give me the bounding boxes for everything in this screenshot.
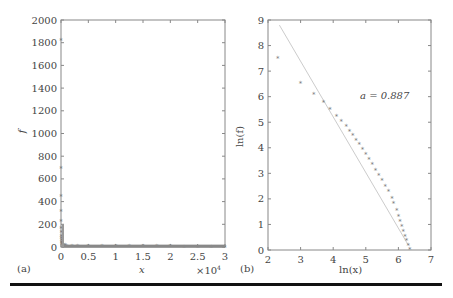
multiplier-base: ×10	[196, 265, 217, 276]
y-tick-label: 5	[258, 117, 264, 128]
x-tick-label: 2	[167, 251, 173, 262]
chart-b-annotation: a = 0.887	[360, 90, 409, 101]
y-tick-label: 6	[258, 91, 264, 102]
x-tick-label: 2.5	[190, 251, 206, 262]
y-tick-label: 1400	[32, 83, 57, 94]
chart-b-xlabel: ln(x)	[339, 264, 362, 275]
y-tick-label: 600	[38, 173, 57, 184]
y-tick-label: 800	[38, 151, 57, 162]
chart-b: 2345670123456789************************…	[258, 15, 435, 266]
data-point: *	[408, 246, 412, 254]
data-point: *	[340, 118, 344, 126]
y-tick-label: 1	[258, 219, 264, 230]
y-tick-label: 1000	[32, 128, 57, 139]
charts-canvas: 00.511.522.53020040060080010001200140016…	[0, 0, 453, 298]
dense-points-column	[62, 224, 64, 247]
y-tick-label: 9	[258, 15, 264, 26]
x-tick-label: 1	[112, 251, 118, 262]
multiplier-exponent: 4	[217, 264, 221, 271]
bottom-rule	[10, 283, 442, 286]
y-tick-label: 0	[258, 245, 264, 256]
y-tick-label: 2000	[32, 15, 57, 26]
data-point: *	[322, 99, 326, 107]
chart-a: 00.511.522.53020040060080010001200140016…	[32, 15, 229, 263]
fit-line	[279, 25, 408, 245]
data-point: *	[59, 208, 63, 216]
data-point: *	[328, 106, 332, 114]
y-tick-label: 2	[258, 193, 264, 204]
y-tick-label: 4	[258, 142, 264, 153]
data-point: *	[59, 193, 63, 201]
dense-points-band	[62, 245, 225, 248]
data-point: *	[335, 113, 339, 121]
x-tick-label: 3	[222, 251, 228, 262]
x-tick-label: 3	[297, 254, 303, 265]
data-point: *	[312, 91, 316, 99]
panel-b-label: (b)	[240, 263, 254, 274]
x-tick-label: 4	[330, 254, 336, 265]
y-tick-label: 3	[258, 168, 264, 179]
y-tick-label: 1600	[32, 60, 57, 71]
x-tick-label: 0.5	[80, 251, 96, 262]
chart-a-xlabel: x	[139, 264, 145, 275]
y-tick-label: 1800	[32, 37, 57, 48]
data-point: *	[59, 37, 63, 45]
y-tick-label: 400	[38, 196, 57, 207]
chart-b-ylabel: ln(f)	[234, 126, 245, 147]
x-tick-label: 0	[58, 251, 64, 262]
panel-a-label: (a)	[17, 263, 31, 274]
plot-frame	[61, 20, 225, 247]
y-tick-label: 8	[258, 40, 264, 51]
y-tick-label: 7	[258, 66, 264, 77]
chart-a-ylabel: f	[16, 130, 27, 134]
y-tick-label: 200	[38, 219, 57, 230]
x-tick-label: 2	[265, 254, 271, 265]
data-point: *	[299, 80, 303, 88]
y-tick-label: 0	[51, 242, 57, 253]
data-point: *	[276, 55, 280, 63]
y-tick-label: 1200	[32, 105, 57, 116]
x-tick-label: 7	[428, 254, 434, 265]
x-tick-label: 6	[395, 254, 401, 265]
data-point: *	[59, 165, 63, 173]
chart-a-x-multiplier: ×104	[196, 264, 221, 276]
x-tick-label: 5	[363, 254, 369, 265]
x-tick-label: 1.5	[135, 251, 151, 262]
